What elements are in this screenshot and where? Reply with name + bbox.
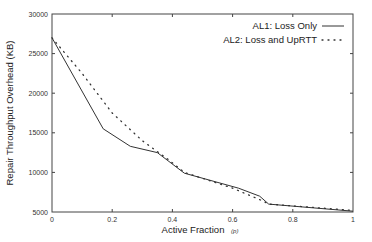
y-tick-label: 25000: [29, 50, 49, 57]
y-tick-label: 15000: [29, 129, 49, 136]
y-tick-label: 10000: [29, 169, 49, 176]
x-axis-title-text: Active Fraction: [162, 224, 225, 235]
series-layer: [52, 38, 353, 211]
x-axis-symbol: (p): [231, 228, 238, 234]
y-tick-label: 5000: [32, 209, 48, 216]
legend-label-1: AL1: Loss Only: [253, 20, 318, 31]
x-axis: 00.20.40.60.81: [50, 14, 355, 223]
y-axis-title: Repair Throughput Overhead (KB): [4, 40, 15, 185]
x-tick-label: 0.6: [228, 216, 238, 223]
line-chart: 50001000015000200002500030000 00.20.40.6…: [0, 0, 372, 242]
legend: AL1: Loss OnlyAL2: Loss and UpRTT: [223, 20, 344, 45]
x-axis-title: Active Fraction (p): [162, 224, 239, 235]
x-tick-label: 1: [351, 216, 355, 223]
y-tick-label: 20000: [29, 90, 49, 97]
series-line-1: [52, 38, 353, 211]
legend-label-2: AL2: Loss and UpRTT: [223, 34, 317, 45]
y-tick-label: 30000: [29, 11, 49, 18]
series-line-2: [52, 38, 353, 211]
x-tick-label: 0.2: [107, 216, 117, 223]
x-tick-label: 0.4: [168, 216, 178, 223]
x-tick-label: 0.8: [288, 216, 298, 223]
x-tick-label: 0: [50, 216, 54, 223]
